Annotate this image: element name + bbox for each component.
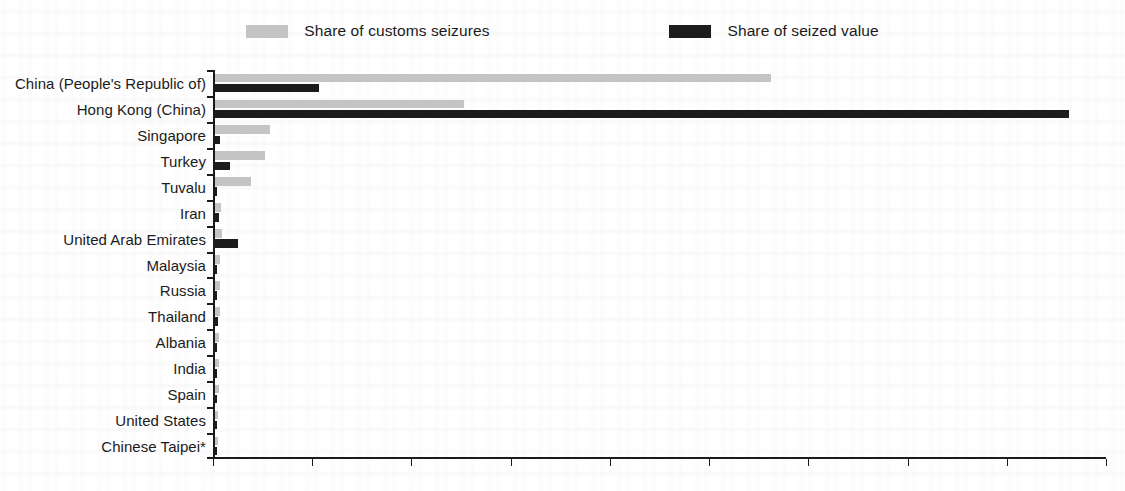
legend-swatch-dark-icon <box>669 25 711 38</box>
x-axis-tick <box>411 459 412 466</box>
y-axis-tick <box>207 70 213 72</box>
bar-customs-seizures <box>215 229 222 238</box>
bar-seized-value <box>215 265 217 274</box>
bar-seized-value <box>215 395 217 404</box>
bar-customs-seizures <box>215 203 221 212</box>
x-axis-tick <box>610 459 611 466</box>
bar-seized-value <box>215 369 217 378</box>
bar-seized-value <box>215 421 217 430</box>
bar-seized-value <box>215 343 217 352</box>
x-axis-tick <box>1007 459 1008 466</box>
y-axis-tick <box>207 303 213 305</box>
y-axis-tick <box>207 148 213 150</box>
bar-customs-seizures <box>215 385 219 394</box>
bar-seized-value <box>215 162 230 171</box>
y-axis-tick <box>207 174 213 176</box>
y-axis-labels: China (People's Republic of)Hong Kong (C… <box>0 70 206 459</box>
y-axis-category-label: Russia <box>160 282 206 299</box>
bar-seized-value <box>215 317 218 326</box>
bar-customs-seizures <box>215 177 251 186</box>
y-axis-tick <box>207 457 213 459</box>
bar-seized-value <box>215 213 219 222</box>
y-axis-tick <box>207 329 213 331</box>
x-axis-tick <box>908 459 909 466</box>
bar-customs-seizures <box>215 151 265 160</box>
y-axis-category-label: Albania <box>156 334 206 351</box>
y-axis-tick <box>207 277 213 279</box>
y-axis-tick <box>207 381 213 383</box>
legend-label-customs-seizures: Share of customs seizures <box>304 22 489 40</box>
bar-customs-seizures <box>215 100 464 109</box>
bar-customs-seizures <box>215 281 220 290</box>
chart-legend: Share of customs seizures Share of seize… <box>0 18 1125 44</box>
y-axis-category-label: Malaysia <box>146 256 206 273</box>
bar-chart: Share of customs seizures Share of seize… <box>0 0 1125 491</box>
y-axis-category-label: United Arab Emirates <box>63 230 206 247</box>
x-axis-tick <box>1106 459 1107 466</box>
bar-customs-seizures <box>215 125 270 134</box>
y-axis-tick <box>207 407 213 409</box>
y-axis-tick <box>207 433 213 435</box>
y-axis-category-label: Chinese Taipei* <box>101 438 206 455</box>
y-axis-category-label: Spain <box>167 386 206 403</box>
bar-seized-value <box>215 291 217 300</box>
y-axis-category-label: Singapore <box>137 126 206 143</box>
y-axis-category-label: Hong Kong (China) <box>77 100 206 117</box>
legend-entry-customs-seizures: Share of customs seizures <box>246 22 489 40</box>
bar-seized-value <box>215 84 319 93</box>
bar-seized-value <box>215 239 238 248</box>
y-axis-tick <box>207 226 213 228</box>
legend-entry-seized-value: Share of seized value <box>669 22 878 40</box>
bar-customs-seizures <box>215 333 219 342</box>
y-axis-category-label: Iran <box>180 204 206 221</box>
x-axis-tick <box>213 459 214 466</box>
bar-customs-seizures <box>215 437 218 446</box>
legend-swatch-light-icon <box>246 25 288 38</box>
x-axis-tick <box>511 459 512 466</box>
x-axis-line <box>213 457 1106 459</box>
bar-customs-seizures <box>215 307 220 316</box>
y-axis-category-label: Thailand <box>148 308 206 325</box>
plot-area: 0%10%20%30%40%50%60%70%80%90% <box>213 70 1106 459</box>
y-axis-tick <box>207 252 213 254</box>
bar-seized-value <box>215 136 220 145</box>
y-axis-category-label: United States <box>115 412 206 429</box>
y-axis-tick <box>207 122 213 124</box>
y-axis-category-label: Turkey <box>160 152 206 169</box>
bar-customs-seizures <box>215 411 218 420</box>
y-axis-tick <box>207 355 213 357</box>
bar-seized-value <box>215 110 1069 119</box>
y-axis-category-label: Tuvalu <box>161 178 206 195</box>
y-axis-tick <box>207 96 213 98</box>
y-axis-tick <box>207 200 213 202</box>
x-axis-tick <box>312 459 313 466</box>
legend-label-seized-value: Share of seized value <box>727 22 878 40</box>
x-axis-tick <box>709 459 710 466</box>
y-axis-category-label: China (People's Republic of) <box>15 74 206 91</box>
y-axis-category-label: India <box>173 360 206 377</box>
bar-customs-seizures <box>215 359 219 368</box>
x-axis-tick <box>808 459 809 466</box>
bar-seized-value <box>215 447 217 456</box>
bar-customs-seizures <box>215 255 220 264</box>
bar-seized-value <box>215 187 217 196</box>
bar-customs-seizures <box>215 74 771 83</box>
